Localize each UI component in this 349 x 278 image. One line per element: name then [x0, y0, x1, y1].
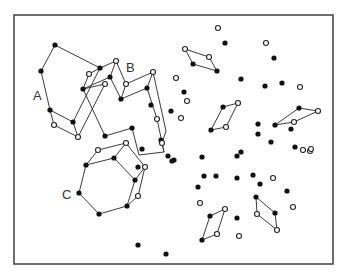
scattered-filled-point: [250, 172, 255, 177]
scattered-open-point: [309, 147, 314, 152]
cluster-label-a: A: [33, 88, 42, 103]
cluster-c-filled-point: [83, 162, 88, 167]
scattered-filled-point: [234, 175, 239, 180]
cluster-c-filled-point: [139, 146, 144, 151]
cluster-b-filled-point: [148, 102, 153, 107]
scattered-filled-point: [181, 89, 186, 94]
cluster-a-open-point: [103, 82, 108, 87]
parallelogram-filled-point: [220, 104, 225, 109]
scattered-filled-point: [234, 215, 239, 220]
scattered-open-point: [264, 41, 269, 46]
cluster-c-open-point: [143, 165, 148, 170]
cluster-b-filled-point: [102, 133, 107, 138]
scattered-filled-point: [268, 139, 273, 144]
cluster-c-filled-point: [124, 203, 129, 208]
parallelogram-filled-point: [253, 194, 258, 199]
parallelogram-open-point: [224, 125, 229, 130]
parallelogram-filled-point: [208, 127, 213, 132]
cluster-b-filled-point: [135, 164, 140, 169]
scattered-open-point: [174, 76, 179, 81]
cluster-a-filled-point: [80, 86, 85, 91]
cluster-a-open-point: [52, 123, 57, 128]
parallelogram-filled-point: [214, 68, 219, 73]
scattered-open-point: [237, 234, 242, 239]
cluster-b-filled-point: [107, 74, 112, 79]
cluster-c-open-point: [136, 194, 141, 199]
scattered-filled-point: [234, 153, 239, 158]
scattered-filled-point: [201, 173, 206, 178]
scattered-filled-point: [168, 108, 173, 113]
cluster-b-open-point: [124, 82, 129, 87]
parallelogram-filled-point: [199, 237, 204, 242]
parallelogram-open-point: [275, 228, 280, 233]
parallelogram-open-point: [207, 55, 212, 60]
parallelogram-filled-point: [296, 105, 301, 110]
scattered-filled-point: [199, 154, 204, 159]
cluster-b-open-point: [151, 70, 156, 75]
parallelogram-open-point: [183, 47, 188, 52]
scattered-open-point: [179, 116, 184, 121]
scattered-open-point: [185, 99, 190, 104]
cluster-b-open-point: [155, 117, 160, 122]
point-cluster-diagram: A B C: [0, 0, 349, 278]
cluster-b-filled-point: [118, 96, 123, 101]
parallelogram-open-point: [223, 207, 228, 212]
parallelogram-open-point: [292, 120, 297, 125]
cluster-a-filled-point: [70, 119, 75, 124]
scattered-open-point: [298, 85, 303, 90]
scattered-filled-point: [262, 83, 267, 88]
scattered-filled-point: [222, 40, 227, 45]
cluster-c-open-point: [124, 141, 129, 146]
cluster-c-filled-point: [111, 155, 116, 160]
cluster-c-filled-point: [96, 211, 101, 216]
parallelogram-open-point: [236, 101, 241, 106]
figure-frame: [14, 15, 333, 264]
cluster-a-filled-point: [52, 42, 57, 47]
scattered-open-point: [291, 205, 296, 210]
scattered-open-point: [301, 148, 306, 153]
scattered-filled-point: [292, 144, 297, 149]
parallelogram-filled-point: [272, 122, 277, 127]
cluster-b-filled-point: [144, 85, 149, 90]
cluster-c-open-point: [96, 148, 101, 153]
scattered-open-point: [271, 176, 276, 181]
cluster-c-filled-point: [76, 190, 81, 195]
parallelogram-filled-point: [207, 213, 212, 218]
cluster-a-filled-point: [38, 68, 43, 73]
scattered-filled-point: [271, 55, 276, 60]
scattered-filled-point: [257, 181, 262, 186]
scattered-filled-point: [238, 76, 243, 81]
scattered-open-point: [198, 201, 203, 206]
parallelogram-open-point: [215, 232, 220, 237]
scattered-filled-point: [195, 184, 200, 189]
cluster-label-c: C: [62, 187, 71, 202]
parallelogram-filled-point: [190, 61, 195, 66]
cluster-b-filled-point: [165, 153, 170, 158]
cluster-b-filled-point: [129, 125, 134, 130]
scattered-filled-point: [238, 149, 243, 154]
cluster-c-filled-point: [132, 177, 137, 182]
scattered-open-point: [216, 26, 221, 31]
scattered-filled-point: [279, 80, 284, 85]
scattered-filled-point: [255, 131, 260, 136]
scattered-filled-point: [213, 173, 218, 178]
cluster-a-filled-point: [97, 65, 102, 70]
parallelogram-open-point: [316, 109, 321, 114]
scattered-filled-point: [163, 251, 168, 256]
cluster-b-open-point: [160, 141, 165, 146]
scattered-filled-point: [288, 126, 293, 131]
scattered-filled-point: [284, 188, 289, 193]
scattered-filled-point: [171, 157, 176, 162]
parallelogram-filled-point: [272, 210, 277, 215]
parallelogram-open-point: [255, 212, 260, 217]
cluster-a-open-point: [76, 135, 81, 140]
cluster-a-open-point: [87, 72, 92, 77]
cluster-a-filled-point: [47, 107, 52, 112]
scattered-filled-point: [255, 121, 260, 126]
cluster-b-open-point: [114, 59, 119, 64]
cluster-label-b: B: [126, 60, 135, 75]
scattered-filled-point: [135, 242, 140, 247]
